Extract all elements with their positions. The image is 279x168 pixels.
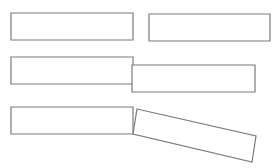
rect-2a — [11, 57, 133, 84]
rectangle-group — [11, 13, 270, 162]
row-3-rotated — [11, 107, 256, 162]
rect-1b — [149, 14, 270, 41]
row-1-separated — [11, 13, 270, 41]
rect-3a — [11, 107, 133, 134]
rect-1a — [11, 13, 133, 40]
diagram-canvas — [0, 0, 279, 168]
row-2-offset — [11, 57, 255, 92]
rect-3b — [133, 109, 256, 162]
rect-2b — [132, 65, 255, 92]
